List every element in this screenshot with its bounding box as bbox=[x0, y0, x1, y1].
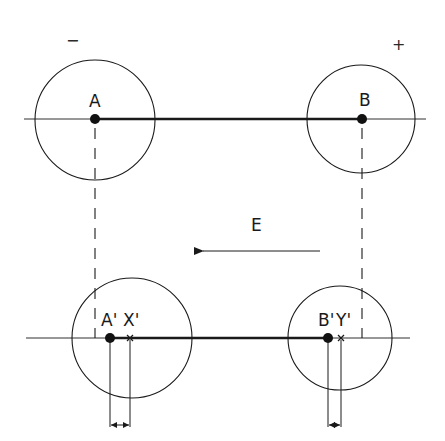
label-a-prime: A' bbox=[101, 310, 117, 330]
label-y-prime: Y' bbox=[335, 310, 351, 330]
positive-sign: + bbox=[392, 35, 405, 54]
bottom-row: A' X' B' Y' bbox=[26, 278, 410, 427]
electrophoresis-diagram: − + A B E A' X' B' Y bbox=[0, 0, 445, 441]
label-b: B bbox=[359, 90, 371, 110]
label-a: A bbox=[89, 91, 101, 111]
negative-sign: − bbox=[66, 31, 79, 50]
point-a-dot bbox=[90, 114, 100, 124]
electric-field: E bbox=[203, 215, 320, 251]
label-x-prime: X' bbox=[123, 310, 139, 330]
point-b-dot bbox=[357, 114, 367, 124]
field-label: E bbox=[251, 215, 262, 235]
top-row: A B bbox=[24, 60, 426, 180]
label-b-prime: B' bbox=[318, 310, 334, 330]
